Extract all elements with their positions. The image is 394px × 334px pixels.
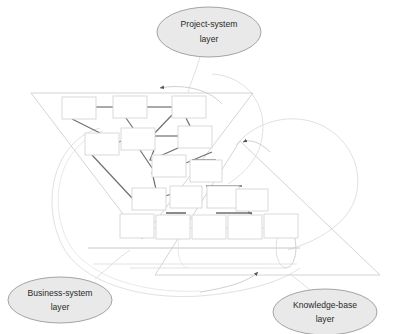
process-box xyxy=(113,96,147,118)
pyramid-box-level2 xyxy=(236,189,268,211)
platform-baseline xyxy=(88,248,300,264)
process-box xyxy=(178,126,212,148)
pyramid-box-level2 xyxy=(170,186,202,208)
process-box xyxy=(121,128,155,150)
process-box xyxy=(62,97,96,119)
callout-ellipse[interactable] xyxy=(8,277,112,323)
pyramid-box-level1 xyxy=(190,160,222,182)
callout-label-line1: Business-system xyxy=(28,288,93,298)
diagram-canvas: Project-system layer Business-system lay… xyxy=(0,0,394,334)
pyramid-box-level3 xyxy=(120,214,154,238)
pyramid-box-level3 xyxy=(192,215,226,239)
callout-business-system[interactable]: Business-system layer xyxy=(8,277,112,323)
callout-label-line1: Knowledge-base xyxy=(293,300,357,310)
layered-architecture-diagram: Project-system layer Business-system lay… xyxy=(0,0,394,334)
callout-label-line1: Project-system xyxy=(181,19,238,29)
pyramid-box-level3 xyxy=(264,214,298,238)
process-box xyxy=(172,96,206,118)
pyramid-box-level2 xyxy=(207,186,239,208)
callout-label-line2: layer xyxy=(200,34,219,44)
leader-business-system xyxy=(95,250,130,279)
pyramid-box-level3 xyxy=(228,215,262,239)
callout-ellipse[interactable] xyxy=(273,289,377,334)
process-box xyxy=(85,133,119,155)
pyramid-box-level3 xyxy=(156,215,190,239)
callout-knowledge-base[interactable]: Knowledge-base layer xyxy=(273,289,377,334)
callout-project-system[interactable]: Project-system layer xyxy=(157,7,261,57)
leader-knowledge-base xyxy=(290,274,310,290)
leader-project-system xyxy=(188,57,200,92)
callout-label-line2: layer xyxy=(51,302,70,312)
callout-ellipse[interactable] xyxy=(157,7,261,57)
callout-label-line2: layer xyxy=(316,314,335,324)
arrow-to-knowledge-layer xyxy=(243,141,270,152)
process-box xyxy=(132,188,166,210)
process-box xyxy=(152,155,186,177)
